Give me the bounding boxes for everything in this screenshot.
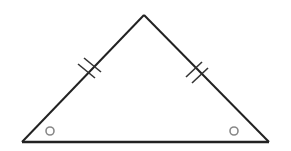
- side-left: [22, 15, 144, 142]
- angle-mark-left-icon: [46, 127, 54, 135]
- side-right: [144, 15, 269, 142]
- tick-marks-left: [78, 58, 101, 78]
- angle-mark-right-icon: [230, 127, 238, 135]
- tick-marks-right: [186, 62, 208, 83]
- triangle-diagram: [0, 0, 291, 151]
